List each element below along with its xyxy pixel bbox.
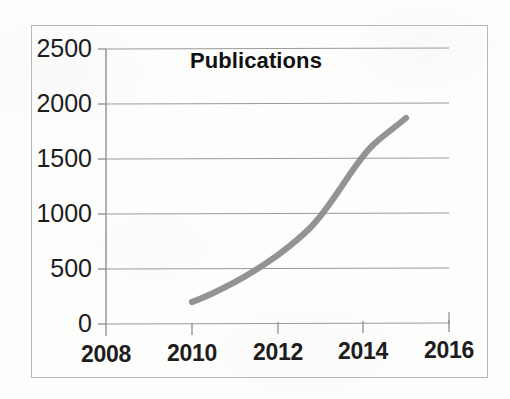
y-tick-label-1000: 1000: [4, 201, 92, 226]
x-tick-marks: [106, 320, 449, 336]
plot-canvas: [32, 26, 486, 376]
x-tick-label-2010: 2010: [144, 342, 240, 365]
y-tick-label-2000: 2000: [4, 91, 92, 116]
y-tick-label-0: 0: [4, 311, 92, 336]
x-tick-label-2014: 2014: [315, 340, 411, 363]
y-tick-label-1500: 1500: [4, 146, 92, 171]
x-tick-label-2008: 2008: [58, 343, 154, 366]
gridlines: [106, 48, 449, 324]
gridline-1500: [106, 158, 449, 159]
chart-frame: 2500 2000 1500 1000 500 0 2008 2010 2012…: [31, 25, 488, 378]
y-tick-marks: [98, 49, 106, 324]
chart-screenshot: 2500 2000 1500 1000 500 0 2008 2010 2012…: [0, 0, 510, 399]
gridline-2000: [106, 103, 449, 104]
x-tick-label-2016: 2016: [401, 339, 497, 362]
chart-title: Publications: [190, 48, 322, 74]
y-tick-label-500: 500: [4, 256, 92, 281]
y-tick-label-2500: 2500: [4, 36, 92, 61]
data-series-line: [192, 118, 406, 302]
x-tick-label-2012: 2012: [230, 341, 326, 364]
gridline-500: [106, 268, 449, 269]
gridline-1000: [106, 213, 449, 214]
